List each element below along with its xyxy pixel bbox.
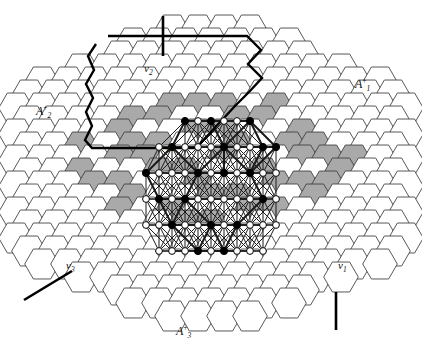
lattice-node-filled [220, 169, 227, 176]
lattice-node-filled [181, 195, 188, 202]
lattice-node-hollow [247, 196, 254, 203]
lattice-node-hollow [208, 144, 215, 151]
lattice-node-hollow [273, 170, 280, 177]
lattice-node-hollow [221, 118, 228, 125]
lattice-node-filled [194, 247, 201, 254]
lattice-node-filled [155, 195, 162, 202]
lattice-node-hollow [260, 222, 267, 229]
lattice-node-hollow [234, 248, 241, 255]
lattice-node-hollow [182, 248, 189, 255]
lattice-node-hollow [234, 196, 241, 203]
lattice-node-hollow [208, 248, 215, 255]
label-A1-plus: A+1 [355, 77, 370, 93]
lattice-node-hollow [247, 144, 254, 151]
lattice-node-filled [181, 117, 188, 124]
lattice-node-hollow [169, 248, 176, 255]
lattice-node-filled [168, 221, 175, 228]
label-z: z [166, 143, 170, 154]
lattice-node-hollow [247, 248, 254, 255]
hexagonal-tiling-figure: A+1A+2A+3v1v2v3z [0, 0, 422, 350]
lattice-node-filled [220, 247, 227, 254]
lattice-node-hollow [143, 196, 150, 203]
label-A3-plus: A+3 [176, 324, 191, 340]
label-v3: v3 [66, 260, 75, 274]
lattice-node-filled [207, 221, 214, 228]
tiling-canvas [0, 0, 422, 350]
lattice-node-filled [259, 143, 266, 150]
lattice-node-filled [233, 221, 240, 228]
lattice-node-hollow [195, 118, 202, 125]
lattice-node-hollow [273, 196, 280, 203]
lattice-node-hollow [182, 170, 189, 177]
lattice-node-filled [246, 169, 253, 176]
lattice-node-hollow [221, 196, 228, 203]
lattice-node-hollow [156, 170, 163, 177]
lattice-node-hollow [156, 144, 163, 151]
lattice-node-hollow [195, 144, 202, 151]
lattice-node-hollow [156, 248, 163, 255]
lattice-node-hollow [273, 222, 280, 229]
lattice-node-hollow [221, 222, 228, 229]
lattice-node-hollow [260, 248, 267, 255]
lattice-node-hollow [169, 170, 176, 177]
lattice-node-hollow [208, 196, 215, 203]
lattice-node-filled [246, 117, 253, 124]
lattice-node-filled [207, 117, 214, 124]
lattice-node-hollow [169, 196, 176, 203]
label-A2-plus: A+2 [36, 104, 51, 120]
lattice-node-filled [259, 195, 266, 202]
lattice-node-hollow [143, 222, 150, 229]
lattice-node-filled [272, 143, 279, 150]
label-v1: v1 [338, 260, 347, 274]
lattice-node-hollow [156, 222, 163, 229]
lattice-node-hollow [234, 170, 241, 177]
lattice-node-hollow [182, 222, 189, 229]
lattice-node-filled [194, 169, 201, 176]
lattice-node-hollow [208, 170, 215, 177]
lattice-node-hollow [195, 222, 202, 229]
label-v2: v2 [144, 63, 153, 77]
lattice-node-hollow [182, 144, 189, 151]
lattice-node-hollow [234, 144, 241, 151]
lattice-node-hollow [260, 170, 267, 177]
lattice-node-hollow [195, 196, 202, 203]
lattice-node-filled [142, 169, 149, 176]
lattice-node-filled [220, 143, 227, 150]
lattice-node-hollow [234, 118, 241, 125]
lattice-node-hollow [247, 222, 254, 229]
